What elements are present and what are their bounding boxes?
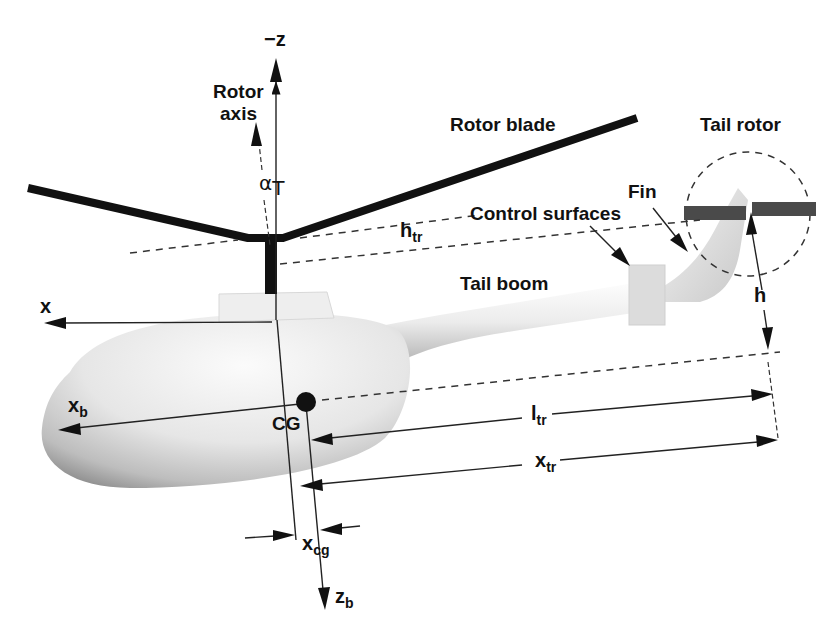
ltr-arrowhead-right	[751, 389, 773, 401]
x-axis-arrowhead	[44, 317, 66, 329]
rotor-axis-label-line2: axis	[220, 103, 257, 124]
h-tr-base: h	[400, 219, 412, 241]
h-arrowhead-down	[762, 327, 773, 350]
rotor-axis-label-line1: Rotor	[213, 81, 264, 102]
control-surfaces-label: Control surfaces	[470, 203, 621, 224]
hub-plane-line	[130, 240, 238, 253]
cabin-shape	[42, 313, 410, 488]
h-tr-lower-line	[280, 220, 700, 264]
xcg-arrow-left-line	[245, 536, 275, 538]
xcg-arrowhead-left	[273, 530, 295, 541]
ltr-dimension-right	[552, 396, 752, 414]
xcg-base: x	[302, 532, 313, 554]
fin-shape	[664, 188, 748, 302]
xcg-symbol: xcg	[302, 532, 329, 558]
xtr-dimension-left	[320, 465, 522, 484]
tail-rotor	[684, 152, 816, 276]
xcg-arrow-right-line	[340, 526, 360, 528]
neg-z-label: −z	[264, 28, 286, 50]
xb-base: x	[68, 394, 79, 416]
ltr-symbol: ltr	[531, 402, 547, 428]
tail-rotor-blade-right	[752, 202, 816, 216]
alpha-t-sub: T	[271, 176, 285, 200]
xtr-arrowhead-right	[756, 435, 778, 447]
ltr-sub: tr	[537, 412, 548, 428]
xtr-base: x	[535, 449, 546, 471]
rotor-blade-label: Rotor blade	[450, 114, 556, 135]
control-surface-block	[629, 265, 665, 325]
cg-label: CG	[272, 413, 301, 434]
tail-rotor-label: Tail rotor	[700, 114, 782, 135]
tail-rotor-vertical-dashed	[768, 362, 778, 438]
cg-marker	[296, 392, 316, 412]
helicopter-geometry-diagram: −z Rotor axis αT Rotor blade Tail rotor …	[0, 0, 839, 635]
xtr-symbol: xtr	[535, 449, 557, 475]
zb-symbol: zb	[335, 585, 354, 611]
h-dimension-lower	[764, 310, 767, 330]
xcg-sub: cg	[313, 542, 329, 558]
tail-rotor-blade-left	[684, 206, 746, 220]
zb-base: z	[335, 585, 345, 607]
h-tr-sub: tr	[412, 229, 423, 245]
fuselage	[42, 188, 748, 488]
xb-sub: b	[79, 404, 88, 420]
rotor-mast	[265, 238, 277, 294]
xtr-sub: tr	[546, 459, 557, 475]
h-dimension-line	[752, 232, 762, 290]
neg-z-arrowhead	[270, 58, 282, 82]
zb-sub: b	[345, 595, 354, 611]
fin-leader-arrowhead	[670, 233, 688, 252]
h-symbol: h	[754, 284, 766, 306]
alpha-t-base: α	[259, 171, 272, 195]
rotor-axis-arrowhead	[251, 122, 262, 146]
x-axis-label: x	[40, 295, 51, 317]
xtr-arrowhead-left	[300, 479, 323, 491]
tail-boom-shape	[370, 282, 640, 362]
xtr-dimension-right	[560, 442, 758, 460]
fin-label: Fin	[628, 181, 657, 202]
zb-axis-arrowhead	[318, 587, 330, 610]
tail-boom-label: Tail boom	[460, 273, 548, 294]
xcg-arrowhead-right	[320, 523, 342, 535]
alpha-t-symbol: αT	[259, 171, 285, 200]
